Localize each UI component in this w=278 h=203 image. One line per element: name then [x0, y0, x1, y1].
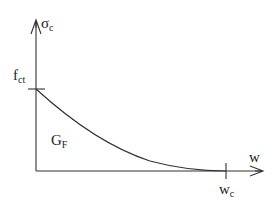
wc-label: wc	[219, 181, 235, 199]
gf-area-label: GF	[51, 132, 68, 150]
x-axis-label: w	[249, 149, 260, 165]
softening-curve	[36, 89, 226, 171]
softening-curve-diagram: σc fct GF w wc	[0, 0, 278, 203]
y-axis-label: σc	[41, 15, 54, 33]
fct-label: fct	[13, 67, 25, 85]
